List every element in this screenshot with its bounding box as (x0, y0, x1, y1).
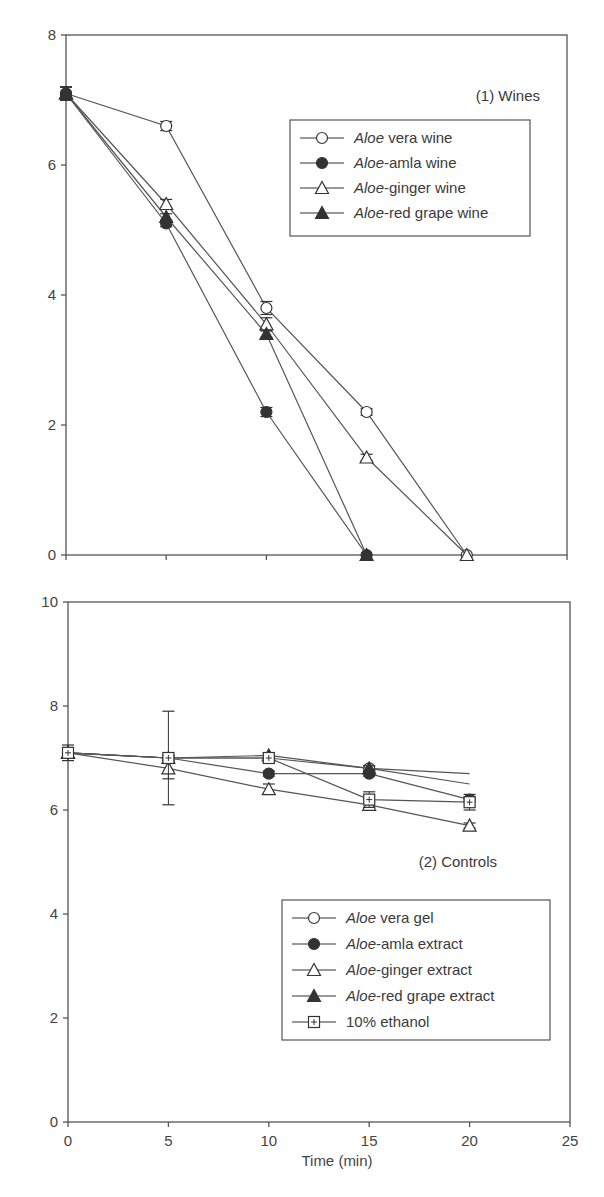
open-circle-marker-icon (317, 133, 328, 144)
y-tick-label: 6 (48, 156, 56, 173)
x-tick-label: 10 (260, 1132, 277, 1149)
panel-label: (1) Wines (476, 87, 540, 104)
x-tick-label: 25 (562, 1132, 579, 1149)
x-axis (66, 555, 567, 560)
legend-label: Aloe vera gel (345, 909, 434, 926)
y-tick-label: 8 (48, 26, 56, 43)
square-plus-marker-icon (63, 747, 74, 758)
y-axis: 0246810 (41, 593, 68, 1130)
y-tick-label: 2 (48, 416, 56, 433)
y-tick-label: 0 (50, 1113, 58, 1130)
legend: Aloe vera gelAloe-amla extractAloe-ginge… (282, 900, 550, 1040)
x-axis-label: Time (min) (301, 1152, 372, 1169)
filled-circle-marker-icon (263, 768, 274, 779)
filled-circle-marker-icon (261, 407, 272, 418)
open-circle-marker-icon (361, 407, 372, 418)
controls-panel: 02468100510152025Time (min)(2) ControlsA… (41, 593, 578, 1169)
plot-frame (66, 35, 567, 555)
x-tick-label: 20 (461, 1132, 478, 1149)
wines-panel: 02468(1) WinesAloe vera wineAloe-amla wi… (48, 26, 567, 563)
x-tick-label: 15 (361, 1132, 378, 1149)
legend-label: Aloe-ginger wine (353, 179, 466, 196)
square-plus-marker-icon (309, 1017, 320, 1028)
open-circle-marker-icon (261, 303, 272, 314)
y-axis: 02468 (48, 26, 66, 563)
y-tick-label: 4 (48, 286, 56, 303)
filled-circle-marker-icon (317, 158, 328, 169)
x-axis: 0510152025Time (min) (64, 1122, 579, 1169)
legend-label: Aloe-amla extract (345, 935, 464, 952)
legend-label: Aloe-ginger extract (345, 961, 473, 978)
y-tick-label: 2 (50, 1009, 58, 1026)
legend-label: Aloe-red grape extract (345, 987, 495, 1004)
open-circle-marker-icon (309, 913, 320, 924)
square-plus-marker-icon (464, 797, 475, 808)
legend-label: Aloe-red grape wine (353, 204, 488, 221)
y-tick-label: 10 (41, 593, 58, 610)
y-tick-label: 6 (50, 801, 58, 818)
chart-figure: 02468(1) WinesAloe vera wineAloe-amla wi… (0, 0, 604, 1197)
y-tick-label: 8 (50, 697, 58, 714)
legend-label: 10% ethanol (346, 1013, 429, 1030)
square-plus-marker-icon (163, 753, 174, 764)
y-tick-label: 4 (50, 905, 58, 922)
square-plus-marker-icon (263, 753, 274, 764)
panel-label: (2) Controls (419, 853, 497, 870)
x-tick-label: 0 (64, 1132, 72, 1149)
open-circle-marker-icon (161, 121, 172, 132)
legend-label: Aloe-amla wine (353, 154, 457, 171)
legend: Aloe vera wineAloe-amla wineAloe-ginger … (290, 120, 530, 236)
filled-circle-marker-icon (309, 939, 320, 950)
x-tick-label: 5 (164, 1132, 172, 1149)
legend-label: Aloe vera wine (353, 129, 452, 146)
y-tick-label: 0 (48, 546, 56, 563)
open-triangle-marker-icon (360, 451, 373, 463)
square-plus-marker-icon (364, 794, 375, 805)
